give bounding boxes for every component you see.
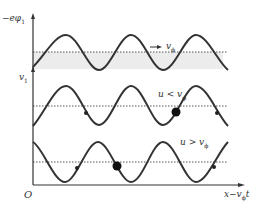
y-axis-arrow-top-icon bbox=[31, 13, 35, 19]
particle-marker-small bbox=[75, 166, 79, 170]
slow-particle-annotation-text: u < v bbox=[158, 89, 182, 99]
mid-y-axis-label: v1 bbox=[19, 73, 28, 84]
particle-marker-small bbox=[84, 111, 88, 115]
particle-marker-large bbox=[113, 162, 122, 171]
x-axis-label-text: x−v bbox=[224, 189, 242, 199]
shaded-region bbox=[33, 52, 223, 69]
top-y-axis-label-text: −eφ bbox=[2, 13, 21, 23]
phase-velocity-annotation: ϕ vϕ bbox=[166, 42, 175, 53]
panel-slow-particle bbox=[33, 86, 228, 126]
fast-particle-annotation-text: u > v bbox=[180, 137, 204, 147]
particle-marker-small bbox=[215, 111, 219, 115]
particle-marker-large bbox=[172, 108, 181, 117]
top-y-axis-label-sub: 1 bbox=[21, 18, 25, 25]
x-axis-arrow-icon bbox=[238, 183, 245, 187]
slow-particle-annotation: u < vϕ bbox=[158, 90, 186, 101]
x-axis-label: x−vϕt bbox=[224, 190, 249, 201]
fast-particle-annotation-sub: ϕ bbox=[204, 142, 208, 149]
origin-label: O bbox=[24, 190, 32, 200]
wave-phase-diagram bbox=[0, 0, 267, 213]
mid-y-axis-label-sub: 1 bbox=[24, 77, 28, 84]
particle-marker-small bbox=[212, 165, 216, 169]
slow-particle-annotation-sub: ϕ bbox=[182, 94, 186, 101]
panel-potential bbox=[33, 35, 228, 70]
phase-velocity-subscript: ϕ bbox=[171, 46, 175, 53]
fast-particle-annotation: u > vϕ bbox=[180, 138, 208, 149]
top-y-axis-label: −eφ1 bbox=[2, 14, 25, 25]
origin-label-text: O bbox=[24, 189, 32, 200]
x-axis-label-suffix: t bbox=[246, 189, 250, 199]
propagation-arrow-icon bbox=[157, 45, 162, 49]
